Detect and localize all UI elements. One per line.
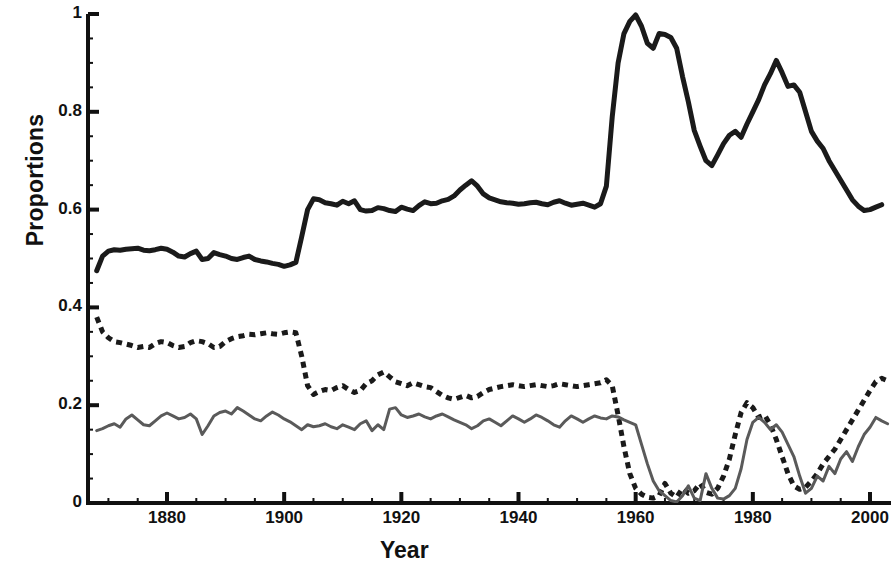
data-series-line: [97, 317, 888, 498]
data-series-line: [97, 15, 882, 271]
plot-area: [0, 0, 891, 579]
chart-figure: Proportions Year 00.20.40.60.81 18801900…: [0, 0, 891, 579]
